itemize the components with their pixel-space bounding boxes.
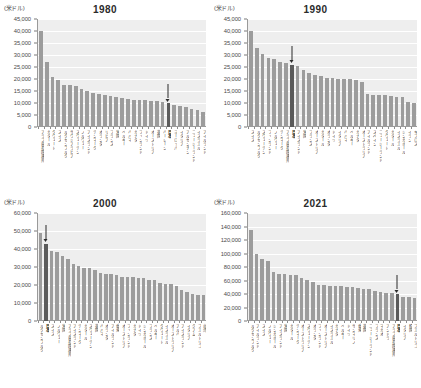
x-axis-label: アイルランド [200, 129, 206, 191]
y-tick-label: 50,000 [14, 228, 31, 234]
bar [300, 278, 304, 321]
bar [147, 280, 150, 321]
bar [255, 48, 259, 127]
y-tick-label: 5,000 [17, 112, 31, 118]
bar [322, 285, 326, 321]
y-tick-label: 30,000 [14, 264, 31, 270]
y-tick-label: 10,000 [14, 300, 31, 306]
bar [190, 109, 194, 127]
bar [277, 274, 281, 321]
y-tick-label: 0 [28, 318, 31, 324]
y-tick-label: 15,000 [224, 88, 241, 94]
bar-item [412, 213, 418, 321]
bar [407, 297, 411, 321]
y-tick-label: 0 [28, 124, 31, 130]
bar [328, 286, 332, 321]
chart-title-2021: 2021 [210, 198, 421, 209]
bar-series-2021 [248, 213, 417, 321]
y-tick-label: 40,000 [224, 28, 241, 34]
bar [351, 287, 355, 321]
bar [336, 79, 340, 127]
bar [325, 78, 329, 127]
plot-area-2000 [37, 213, 206, 321]
bar [373, 291, 377, 321]
bar-highlighted [44, 244, 47, 321]
bar [115, 275, 118, 321]
y-tick-label: 60,000 [14, 210, 31, 216]
bar [97, 94, 101, 127]
y-tick-label: 160,000 [221, 210, 241, 216]
plot-area-1980 [37, 19, 206, 127]
y-tick-label: 0 [238, 318, 241, 324]
bar [131, 277, 134, 321]
bar [191, 294, 194, 321]
bar [103, 95, 107, 127]
bar-item [411, 19, 417, 127]
bar [367, 289, 371, 321]
y-axis-2021: 020,00040,00060,00080,000100,000120,0001… [210, 213, 247, 321]
bar [185, 292, 188, 321]
bar [278, 62, 282, 127]
bar [261, 54, 265, 127]
bar [51, 77, 55, 127]
bar [104, 274, 107, 321]
bar [61, 256, 64, 321]
y-axis-2000: 010,00020,00030,00040,00050,00060,000 [0, 213, 37, 321]
bar [362, 289, 366, 321]
bar [202, 295, 205, 321]
bar [401, 97, 405, 127]
bar [77, 266, 80, 321]
annotation-arrow-shaft [46, 225, 47, 239]
chart-title-2000: 2000 [0, 198, 210, 209]
bar-item [201, 213, 206, 321]
bar [331, 78, 335, 127]
bar [406, 102, 410, 127]
bar [143, 100, 147, 127]
bar [296, 66, 300, 127]
bar [196, 110, 200, 127]
y-tick-label: 10,000 [224, 100, 241, 106]
y-tick-label: 20,000 [224, 305, 241, 311]
annotation-arrow-shaft [291, 46, 292, 60]
bar [412, 103, 416, 127]
chart-title-1980: 1980 [0, 4, 210, 15]
bar [142, 278, 145, 321]
bar [175, 286, 178, 321]
y-tick-label: 40,000 [14, 28, 31, 34]
y-tick-label: 35,000 [14, 40, 31, 46]
chart-title-1990: 1990 [210, 4, 421, 15]
y-axis-1980: 05,00010,00015,00020,00025,00030,00035,0… [0, 19, 37, 127]
chart-panel-1990: (米ドル) 1990 05,00010,00015,00020,00025,00… [210, 0, 421, 194]
y-tick-label: 20,000 [14, 282, 31, 288]
bar [395, 97, 399, 127]
bar [169, 284, 172, 321]
bar [307, 73, 311, 127]
bar [114, 97, 118, 127]
bar [161, 102, 165, 127]
y-tick-label: 40,000 [224, 291, 241, 297]
bar [360, 82, 364, 127]
bar [39, 31, 43, 127]
bar [138, 100, 142, 127]
bar-series-2000 [38, 213, 206, 321]
bar-series-1990 [248, 19, 417, 127]
bar-series-1980 [38, 19, 206, 127]
annotation-arrow-head [395, 290, 399, 293]
bar-item [200, 19, 206, 127]
bar [255, 254, 259, 322]
annotation-arrow-head [166, 99, 170, 102]
bar [342, 79, 346, 127]
y-tick-label: 80,000 [224, 264, 241, 270]
x-axis-labels-1990: スイスルクセンブルクスウェーデンフィンランドノルウェーデンマークアラブ首長国連邦… [248, 129, 417, 191]
figure-grid: (米ドル) 1980 05,00010,00015,00020,00025,00… [0, 0, 421, 388]
bar [384, 293, 388, 321]
bar [311, 282, 315, 321]
chart-panel-2000: (米ドル) 2000 010,00020,00030,00040,00050,0… [0, 194, 210, 388]
bar [366, 94, 370, 127]
bar [266, 261, 270, 321]
bar [377, 95, 381, 127]
bar [93, 270, 96, 321]
bar [39, 233, 42, 321]
y-tick-label: 45,000 [14, 16, 31, 22]
bar [356, 288, 360, 321]
